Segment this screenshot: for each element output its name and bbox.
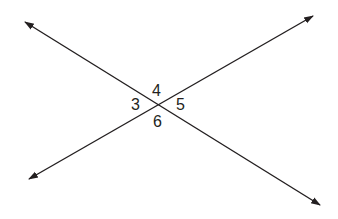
line-b bbox=[29, 16, 313, 179]
angle-label-6: 6 bbox=[153, 113, 162, 130]
angle-label-3: 3 bbox=[131, 96, 140, 113]
intersecting-lines-diagram: 4 3 5 6 bbox=[0, 0, 338, 219]
angle-label-4: 4 bbox=[152, 82, 161, 99]
angle-label-5: 5 bbox=[176, 96, 185, 113]
line-a bbox=[25, 22, 320, 205]
